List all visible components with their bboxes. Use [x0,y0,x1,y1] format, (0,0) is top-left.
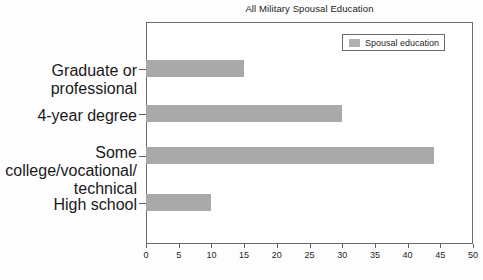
chart-legend: Spousal education [342,34,445,51]
x-axis-tick-label-4: 20 [262,250,292,260]
x-axis-tick-label-5: 25 [295,250,325,260]
y-axis-tick-2 [139,156,146,157]
x-axis-tick-5 [310,244,311,248]
x-axis-tick-label-7: 35 [360,250,390,260]
x-axis-tick-label-6: 30 [327,250,357,260]
bar-2 [146,147,434,164]
chart-container: All Military Spousal Education Spousal e… [0,0,483,280]
bar-1 [146,105,342,122]
x-axis-tick-1 [179,244,180,248]
x-axis-tick-3 [244,244,245,248]
x-axis-tick-label-3: 15 [229,250,259,260]
x-axis-tick-10 [473,244,474,248]
x-axis-tick-label-9: 45 [425,250,455,260]
y-axis-label-3: High school [0,196,137,214]
chart-title: All Military Spousal Education [146,3,473,14]
x-axis-tick-7 [375,244,376,248]
x-axis-tick-2 [211,244,212,248]
legend-label-spousal-education: Spousal education [365,38,439,48]
x-axis-tick-8 [408,244,409,248]
x-axis-tick-4 [277,244,278,248]
y-axis-tick-3 [139,203,146,204]
y-axis-tick-1 [139,114,146,115]
x-axis-tick-0 [146,244,147,248]
y-axis-label-1: 4-year degree [0,107,137,125]
x-axis-tick-label-1: 5 [164,250,194,260]
bar-0 [146,60,244,77]
legend-swatch-spousal-education [349,39,360,47]
x-axis-tick-label-2: 10 [196,250,226,260]
x-axis-tick-label-8: 40 [393,250,423,260]
plot-area [146,22,473,244]
y-axis-tick-0 [139,69,146,70]
x-axis-tick-label-10: 50 [458,250,483,260]
y-axis-label-2: Some college/vocational/ technical [0,144,137,198]
x-axis-tick-label-0: 0 [131,250,161,260]
bar-3 [146,194,211,211]
x-axis-tick-9 [440,244,441,248]
y-axis-label-0: Graduate or professional [0,62,137,98]
x-axis-tick-6 [342,244,343,248]
